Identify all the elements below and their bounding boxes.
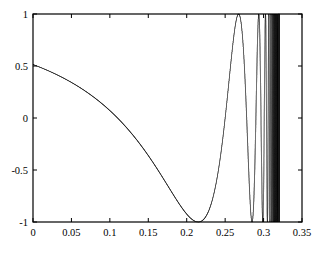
y-tick-label: 0.5: [15, 61, 28, 72]
y-tick-label: 1: [23, 9, 28, 20]
x-tick-label: 0.35: [293, 227, 311, 238]
x-tick-label: 0.15: [139, 227, 157, 238]
y-tick-label: 0: [23, 113, 28, 124]
x-tick-label: 0.25: [216, 227, 234, 238]
y-tick-label: -1: [19, 217, 28, 228]
x-tick-label: 0.3: [257, 227, 270, 238]
x-tick-label: 0.2: [180, 227, 193, 238]
x-tick-label: 0.05: [62, 227, 80, 238]
y-tick-label: -0.5: [11, 165, 28, 176]
chart-svg: 00.050.10.150.20.250.30.35 -1-0.500.51: [0, 0, 320, 254]
x-tick-label: 0: [30, 227, 35, 238]
chart-figure: 00.050.10.150.20.250.30.35 -1-0.500.51: [0, 0, 320, 254]
x-tick-label: 0.1: [103, 227, 116, 238]
